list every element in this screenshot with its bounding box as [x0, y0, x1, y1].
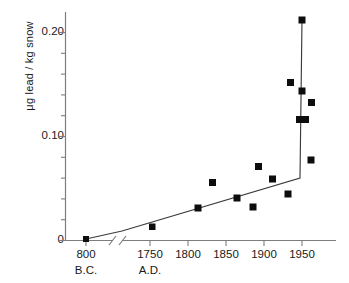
data-point: [299, 17, 306, 24]
data-point: [302, 116, 309, 123]
data-point: [149, 224, 156, 231]
x-axis-ticks: [86, 241, 302, 247]
data-point: [299, 88, 306, 95]
data-point: [269, 176, 276, 183]
data-point: [250, 204, 257, 211]
data-point: [287, 79, 294, 86]
data-point: [195, 205, 202, 212]
data-point: [296, 116, 303, 123]
y-axis-ticks: [59, 33, 66, 241]
data-markers: [83, 17, 315, 243]
data-point: [255, 163, 262, 170]
chart-plot-area: [0, 0, 349, 283]
data-point: [234, 195, 241, 202]
data-point: [308, 157, 315, 164]
data-point: [209, 179, 216, 186]
data-point: [83, 236, 89, 242]
data-point: [285, 191, 292, 198]
data-point: [308, 99, 315, 106]
lead-in-snow-chart: μg lead / kg snow 0.20 0.10 0 800 B.C. 1…: [0, 0, 349, 283]
trend-line: [86, 20, 302, 239]
